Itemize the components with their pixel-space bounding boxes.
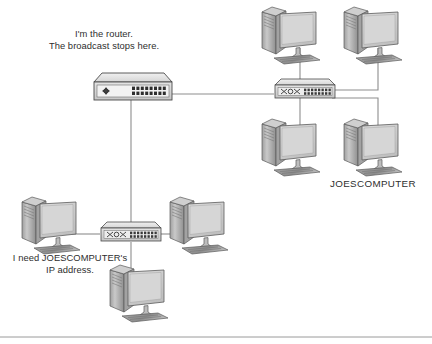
- link-switch-right-to-pc-top-right: [332, 48, 378, 90]
- device-pc-top-left[interactable]: [262, 7, 320, 64]
- diagram-canvas: [0, 0, 432, 344]
- request-callout-line1: I need JOESCOMPUTER's: [13, 252, 127, 263]
- request-callout-line2: IP address.: [46, 264, 94, 275]
- device-pc-joescomputer[interactable]: [344, 119, 402, 176]
- device-pc-top-right[interactable]: [344, 7, 402, 64]
- joescomputer-label: JOESCOMPUTER: [330, 178, 416, 190]
- router-callout-line2: The broadcast stops here.: [49, 40, 159, 51]
- device-router[interactable]: [94, 73, 172, 100]
- device-pc-mid-left[interactable]: [262, 119, 320, 176]
- request-callout: I need JOESCOMPUTER'sIP address.: [2, 252, 138, 275]
- device-pc-left[interactable]: [22, 197, 80, 254]
- network-diagram: I'm the router.The broadcast stops here.…: [0, 0, 432, 344]
- device-switch-right[interactable]: [275, 79, 335, 98]
- device-pc-right[interactable]: [170, 197, 228, 254]
- device-switch-bottom[interactable]: [101, 222, 161, 241]
- router-callout: I'm the router.The broadcast stops here.: [34, 28, 174, 51]
- router-callout-line1: I'm the router.: [75, 28, 133, 39]
